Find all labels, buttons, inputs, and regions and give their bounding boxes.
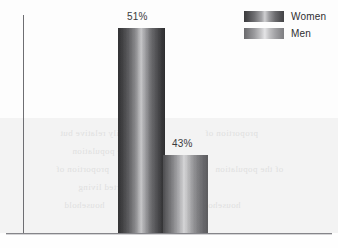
bar-men[interactable]	[163, 155, 208, 233]
legend-label-men: Men	[291, 28, 311, 39]
bar-men-value-label: 43%	[172, 138, 193, 149]
legend-swatch-women	[244, 11, 284, 22]
bar-women[interactable]	[118, 28, 165, 233]
bar-chart-screenshot: a family relative but of the population …	[0, 0, 338, 248]
legend-item-women[interactable]: Women	[244, 11, 326, 22]
legend-label-women: Women	[291, 11, 326, 22]
legend-swatch-men	[244, 28, 284, 39]
legend-item-men[interactable]: Men	[244, 28, 326, 39]
value-axis-line	[23, 15, 24, 233]
bar-women-value-label: 51%	[127, 11, 148, 22]
chart-legend: Women Men	[244, 11, 326, 39]
category-axis-shadow	[6, 234, 332, 235]
